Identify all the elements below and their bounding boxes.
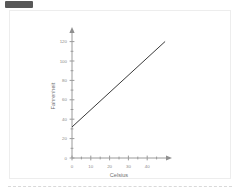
screenshot-root: 0 20 40 60 80 100 120 [0, 0, 240, 195]
x-tick-label: 20 [107, 164, 112, 169]
x-axis-arrow-icon [166, 155, 172, 160]
x-tick-label: 0 [71, 164, 74, 169]
y-axis-arrow-icon [69, 27, 74, 33]
x-tick-label: 10 [88, 164, 93, 169]
chart-svg: 0 20 40 60 80 100 120 [9, 10, 231, 179]
y-tick-label: 120 [60, 39, 68, 44]
x-axis-tick-labels: 0 10 20 30 40 [71, 164, 150, 169]
y-tick-label: 60 [62, 97, 67, 102]
x-tick-label: 40 [145, 164, 150, 169]
y-axis-tick-labels: 0 20 40 60 80 100 120 [60, 39, 68, 160]
y-tick-label: 80 [62, 78, 67, 83]
x-axis-title: Celsius [110, 172, 129, 178]
y-tick-label: 0 [65, 156, 68, 161]
data-series-line [72, 42, 165, 127]
y-tick-label: 20 [62, 136, 67, 141]
x-tick-label: 30 [126, 164, 131, 169]
top-left-badge [5, 1, 33, 8]
y-tick-label: 100 [60, 59, 68, 64]
y-axis-title: Fahrenheit [50, 82, 56, 109]
y-tick-label: 40 [62, 117, 67, 122]
line-chart: 0 20 40 60 80 100 120 [9, 10, 231, 179]
bottom-dashed-separator [8, 186, 232, 187]
